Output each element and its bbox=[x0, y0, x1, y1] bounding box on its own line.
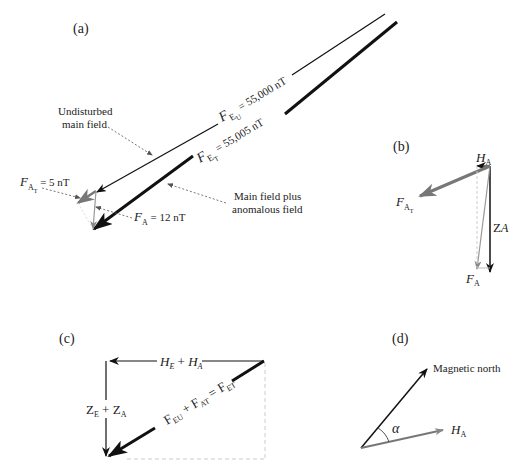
diagonal-label: FEU + FAT = FET bbox=[161, 374, 238, 430]
vertical-label: ZE + ZA bbox=[86, 402, 127, 419]
panel-d: (d) Magnetic north HA α bbox=[361, 331, 501, 448]
undisturbed-label: Undisturbed main field bbox=[58, 105, 115, 130]
ha-label: HA bbox=[475, 150, 491, 167]
panel-b: (b) HA FAT ZA FA bbox=[393, 139, 509, 288]
fat-label: FAT = 5 nT bbox=[19, 174, 70, 194]
panel-b-label: (b) bbox=[393, 139, 410, 155]
magnetic-field-vector-diagram: (a) FEU = 55,000 nT FET = 55,005 nT Undi… bbox=[0, 0, 524, 470]
anomalous-leader-line bbox=[168, 184, 226, 203]
alpha-label: α bbox=[392, 421, 400, 436]
ha-label-d: HA bbox=[450, 422, 466, 439]
panel-c-label: (c) bbox=[59, 331, 75, 347]
fat-vector bbox=[78, 191, 96, 203]
fat-leader-line bbox=[42, 188, 80, 198]
angle-arc bbox=[378, 428, 389, 442]
undisturbed-leader-line bbox=[108, 127, 152, 155]
fa-construction-line bbox=[78, 203, 93, 229]
anomalous-label: Main field plus anomalous field bbox=[232, 190, 304, 215]
fa-vector-b bbox=[477, 166, 490, 269]
panel-a-label: (a) bbox=[73, 21, 89, 37]
fat-label-b: FAT bbox=[395, 194, 414, 214]
fat-vector-b bbox=[420, 166, 490, 196]
za-label: ZA bbox=[493, 220, 509, 235]
fa-label-b: FA bbox=[465, 271, 480, 288]
diagonal-vector-bottom bbox=[109, 428, 155, 456]
fa-label: FA = 12 nT bbox=[133, 209, 186, 227]
magnetic-north-label: Magnetic north bbox=[433, 362, 501, 374]
fa-vector bbox=[93, 191, 96, 229]
diagonal-vector-top bbox=[232, 361, 264, 381]
panel-c: (c) HE + HA ZE + ZA FEU + FAT = FET bbox=[59, 331, 265, 459]
panel-d-label: (d) bbox=[392, 331, 409, 347]
horizontal-label: HE + HA bbox=[159, 354, 203, 371]
panel-a: (a) FEU = 55,000 nT FET = 55,005 nT Undi… bbox=[19, 14, 397, 229]
